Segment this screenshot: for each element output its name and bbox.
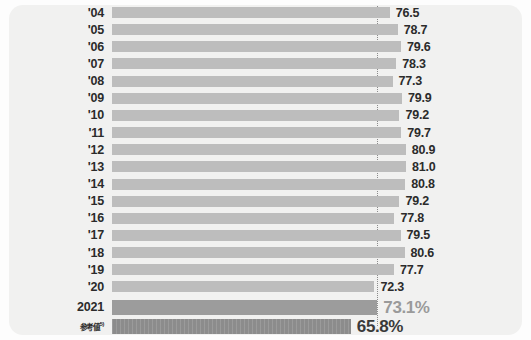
row-label-18: '18 bbox=[0, 247, 104, 260]
value-label-07: 78.3 bbox=[402, 58, 426, 71]
value-label-20: 72.3 bbox=[380, 281, 404, 294]
value-label-参考値: 65.8% bbox=[357, 318, 403, 335]
row-label-05: '05 bbox=[0, 24, 104, 37]
bar-04 bbox=[112, 7, 390, 18]
bar-18 bbox=[112, 247, 405, 258]
bar-16 bbox=[112, 213, 394, 224]
value-label-16: 77.8 bbox=[400, 212, 424, 225]
bar-07 bbox=[112, 58, 396, 69]
row-label-07: '07 bbox=[0, 58, 104, 71]
row-label-15: '15 bbox=[0, 195, 104, 208]
row-label-2021: 2021 bbox=[0, 301, 104, 314]
row-label-13: '13 bbox=[0, 161, 104, 174]
value-label-06: 79.6 bbox=[407, 41, 431, 54]
row-label-参考値: 参考値5) bbox=[0, 322, 104, 331]
value-label-13: 81.0 bbox=[412, 161, 436, 174]
horizontal-bar-chart: '0476.5'0578.7'0679.6'0778.3'0877.3'0979… bbox=[0, 0, 531, 340]
value-label-2021: 73.1% bbox=[383, 299, 429, 316]
bar-05 bbox=[112, 24, 398, 35]
bar-2021 bbox=[112, 300, 377, 315]
row-label-09: '09 bbox=[0, 92, 104, 105]
row-label-11: '11 bbox=[0, 127, 104, 140]
value-label-12: 80.9 bbox=[412, 144, 436, 157]
footnote-marker: 5) bbox=[100, 321, 104, 327]
value-label-09: 79.9 bbox=[408, 92, 432, 105]
row-label-10: '10 bbox=[0, 109, 104, 122]
row-label-20: '20 bbox=[0, 281, 104, 294]
row-label-19: '19 bbox=[0, 264, 104, 277]
value-label-15: 79.2 bbox=[405, 195, 429, 208]
bar-14 bbox=[112, 179, 405, 190]
bar-08 bbox=[112, 76, 393, 87]
chart-screenshot: '0476.5'0578.7'0679.6'0778.3'0877.3'0979… bbox=[0, 0, 531, 340]
value-label-04: 76.5 bbox=[396, 7, 420, 20]
bar-13 bbox=[112, 161, 406, 172]
bar-19 bbox=[112, 264, 394, 275]
bar-09 bbox=[112, 93, 402, 104]
value-label-05: 78.7 bbox=[404, 24, 428, 37]
value-label-18: 80.6 bbox=[411, 247, 435, 260]
bar-20 bbox=[112, 281, 374, 292]
bar-10 bbox=[112, 110, 399, 121]
bar-11 bbox=[112, 127, 401, 138]
value-label-17: 79.5 bbox=[407, 229, 431, 242]
row-label-04: '04 bbox=[0, 7, 104, 20]
bar-12 bbox=[112, 144, 406, 155]
value-label-19: 77.7 bbox=[400, 264, 424, 277]
row-label-12: '12 bbox=[0, 144, 104, 157]
row-label-06: '06 bbox=[0, 41, 104, 54]
value-label-11: 79.7 bbox=[407, 127, 431, 140]
value-label-14: 80.8 bbox=[411, 178, 435, 191]
row-label-17: '17 bbox=[0, 229, 104, 242]
bar-15 bbox=[112, 196, 399, 207]
row-label-16: '16 bbox=[0, 212, 104, 225]
bar-06 bbox=[112, 41, 401, 52]
row-label-14: '14 bbox=[0, 178, 104, 191]
value-label-08: 77.3 bbox=[399, 75, 423, 88]
value-label-10: 79.2 bbox=[405, 109, 429, 122]
bar-17 bbox=[112, 230, 401, 241]
bar-参考値 bbox=[112, 319, 351, 334]
row-label-08: '08 bbox=[0, 75, 104, 88]
